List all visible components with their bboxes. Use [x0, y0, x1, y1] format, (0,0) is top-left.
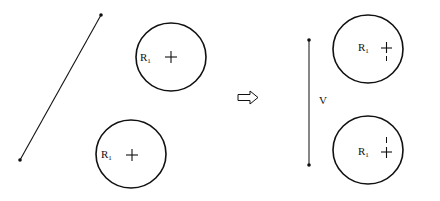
- after-segment: V: [307, 38, 327, 167]
- segment-endpoint-bottom: [18, 158, 22, 162]
- circle-label: R1: [358, 41, 369, 55]
- center-cross-icon: [381, 137, 392, 158]
- after-circle-bottom: R1: [333, 116, 403, 184]
- before-segment: [18, 13, 103, 162]
- center-cross-icon: [165, 51, 177, 63]
- center-cross-icon: [126, 149, 138, 161]
- circle-label: R1: [358, 145, 369, 159]
- segment-label: V: [319, 94, 327, 106]
- diagram-canvas: R1 R1 V R1 R1: [0, 0, 440, 201]
- hollow-right-arrow-icon: [238, 91, 258, 104]
- segment-endpoint-top: [307, 38, 311, 42]
- circle-label: R1: [101, 148, 112, 162]
- segment-endpoint-top: [99, 13, 103, 17]
- diagonal-line: [20, 15, 101, 160]
- before-circle-bottom: R1: [96, 120, 166, 188]
- before-circle-top: R1: [136, 23, 206, 91]
- circle-label: R1: [140, 51, 151, 65]
- center-cross-icon: [381, 42, 392, 61]
- segment-endpoint-bottom: [307, 163, 311, 167]
- after-circle-top: R1: [333, 15, 403, 83]
- circle-outline: [333, 116, 403, 184]
